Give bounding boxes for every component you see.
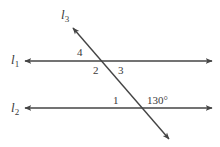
parallel-lines-transversal-diagram: l1 l2 l3 4 2 3 1 130° [0, 0, 220, 147]
line-l3-transversal [73, 28, 169, 139]
angle-label-2: 2 [93, 64, 99, 76]
label-l1: l1 [11, 52, 19, 69]
label-l3: l3 [61, 7, 70, 24]
angle-label-1: 1 [113, 94, 119, 106]
label-l2: l2 [11, 100, 19, 117]
angle-label-4: 4 [77, 46, 83, 58]
angle-label-130-degrees: 130° [147, 94, 168, 106]
angle-label-3: 3 [118, 64, 124, 76]
